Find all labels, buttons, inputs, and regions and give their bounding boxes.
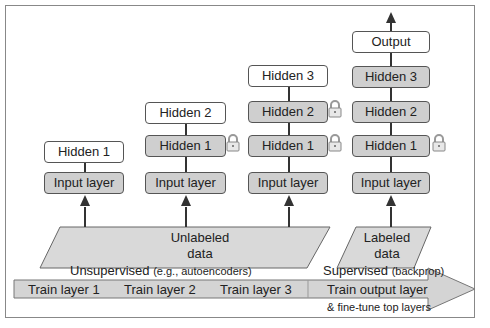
phase-main: Unsupervised	[70, 263, 150, 278]
phase-note: (backprop)	[392, 265, 445, 277]
layer-box: Hidden 2	[352, 101, 430, 123]
lock-icon	[226, 134, 240, 152]
layer-box: Hidden 3	[352, 66, 430, 88]
phase-main: Supervised	[323, 263, 388, 278]
connector	[390, 207, 392, 227]
connector	[288, 85, 290, 175]
timeline-step: Train layer 3	[220, 282, 292, 297]
layer-box: Input layer	[352, 172, 430, 194]
arrow-up-icon	[80, 195, 90, 206]
lock-icon	[328, 100, 342, 118]
supervised-phase-label: Supervised (backprop)	[323, 263, 444, 278]
layer-box: Hidden 2	[248, 101, 328, 123]
unsupervised-phase-label: Unsupervised (e.g., autoencoders)	[70, 263, 252, 278]
connector	[84, 207, 86, 227]
unlabeled-data-label: Unlabeled	[165, 230, 235, 245]
layer-box: Output	[352, 31, 430, 53]
layer-box: Input layer	[44, 172, 124, 194]
labeled-data-label-2: data	[352, 246, 422, 261]
layer-box: Hidden 1	[352, 135, 430, 157]
lock-icon	[432, 134, 446, 152]
layer-box: Input layer	[248, 172, 328, 194]
connector	[288, 207, 290, 227]
layer-box: Hidden 1	[248, 135, 328, 157]
timeline-step: Train layer 2	[124, 282, 196, 297]
layer-box: Hidden 3	[248, 65, 328, 87]
lock-icon	[328, 134, 342, 152]
connector	[185, 207, 187, 227]
connector	[84, 162, 86, 172]
layer-box: Input layer	[145, 172, 226, 194]
phase-note: (e.g., autoencoders)	[153, 265, 251, 277]
timeline-step: Train output layer	[327, 282, 428, 297]
layer-box: Hidden 2	[145, 102, 226, 124]
arrow-up-icon	[386, 12, 396, 23]
timeline-step: Train layer 1	[28, 282, 100, 297]
labeled-data-label: Labeled	[352, 230, 422, 245]
arrow-up-icon	[284, 195, 294, 206]
timeline-sub-note: & fine-tune top layers	[327, 301, 431, 313]
arrow-up-icon	[181, 195, 191, 206]
unlabeled-data-label-2: data	[165, 246, 235, 261]
layer-box: Hidden 1	[145, 135, 226, 157]
layer-box: Hidden 1	[44, 141, 124, 163]
arrow-up-icon	[386, 195, 396, 206]
